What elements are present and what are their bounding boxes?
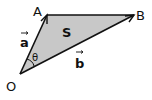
area-label: S <box>62 25 71 40</box>
point-label-a: A <box>33 4 42 19</box>
triangle-diagram: A B O a b S θ <box>0 0 152 100</box>
vector-a-label: a <box>20 35 29 50</box>
angle-label: θ <box>32 52 38 63</box>
point-label-b: B <box>136 8 145 23</box>
vector-b-label: b <box>75 56 84 71</box>
point-label-o: O <box>6 79 16 94</box>
